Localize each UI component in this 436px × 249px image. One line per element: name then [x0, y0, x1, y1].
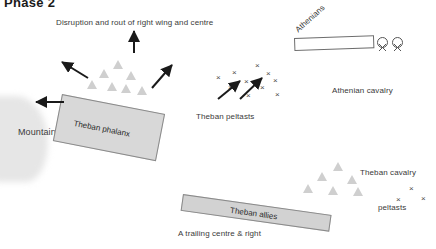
triangle-up-icon	[113, 60, 123, 69]
unit-theban-peltasts-label: Theban peltasts	[196, 113, 254, 122]
triangle-up-icon	[121, 84, 131, 93]
triangle-up-icon	[347, 175, 357, 184]
top-caption: Disruption and rout of right wing and ce…	[56, 19, 213, 28]
unit-peltasts-label: peltasts	[378, 204, 406, 213]
x-mark-icon: ×	[409, 185, 414, 193]
x-mark-icon: ×	[273, 77, 278, 85]
page-title: Phase 2	[4, 0, 55, 10]
triangle-up-icon	[353, 187, 363, 196]
unit-athenian-cavalry-label: Athenian cavalry	[332, 87, 393, 96]
x-mark-icon: ×	[216, 74, 221, 82]
triangle-up-icon	[87, 80, 97, 89]
unit-athenians-label: Athenians	[294, 4, 327, 35]
unit-theban-allies: Theban allies	[181, 194, 332, 232]
triangle-up-icon	[333, 162, 343, 171]
x-mark-icon: ×	[266, 70, 271, 78]
bottom-caption: A trailing centre & right	[178, 230, 261, 239]
triangle-down-icon	[334, 68, 346, 78]
x-mark-icon: ×	[244, 78, 249, 86]
x-mark-icon: ×	[275, 91, 280, 99]
triangle-up-icon	[137, 86, 147, 95]
x-mark-icon: ×	[246, 92, 251, 100]
circled-x-icon	[392, 37, 403, 48]
circled-x-icon	[377, 37, 388, 48]
triangle-up-icon	[99, 69, 109, 78]
triangle-up-icon	[107, 82, 117, 91]
unit-theban-cavalry-label: Theban cavalry	[360, 169, 416, 178]
unit-theban-phalanx-label: Theban phalanx	[73, 119, 131, 139]
unit-theban-phalanx: Theban phalanx	[53, 94, 165, 161]
battle-diagram: Phase 2 Mountain Disruption and rout of …	[0, 0, 436, 249]
mountain-terrain	[0, 96, 48, 182]
triangle-down-icon	[351, 68, 363, 78]
triangle-down-icon	[354, 55, 366, 65]
triangle-down-icon	[338, 55, 350, 65]
arrow-icon	[152, 65, 172, 88]
triangle-up-icon	[328, 186, 338, 195]
mountain-label: Mountain	[18, 128, 56, 138]
triangle-up-icon	[303, 184, 313, 193]
x-mark-icon: ×	[396, 196, 401, 204]
x-mark-icon: ×	[255, 62, 260, 70]
x-mark-icon: ×	[228, 84, 233, 92]
unit-theban-allies-label: Theban allies	[230, 206, 278, 222]
x-mark-icon: ×	[421, 195, 426, 203]
unit-athenians	[294, 35, 374, 51]
triangle-up-icon	[126, 71, 136, 80]
arrow-icon	[62, 62, 88, 78]
triangle-up-icon	[317, 172, 327, 181]
x-mark-icon: ×	[232, 69, 237, 77]
x-mark-icon: ×	[260, 84, 265, 92]
